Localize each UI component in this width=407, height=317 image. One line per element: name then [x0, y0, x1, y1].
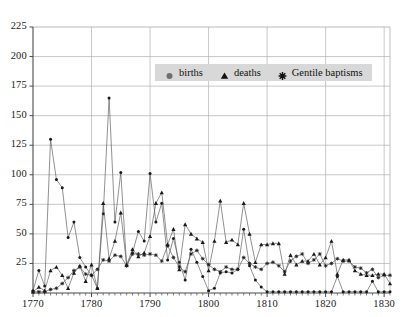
- data-point-asterisk: [119, 254, 123, 258]
- data-point-circle: [143, 239, 146, 242]
- y-axis-tick-label: 150: [0, 109, 27, 120]
- y-axis-tick-label: 75: [0, 197, 27, 208]
- asterisk-marker-icon: [277, 67, 288, 78]
- data-point-asterisk: [142, 253, 146, 257]
- data-point-circle: [67, 236, 70, 239]
- data-point-asterisk: [382, 273, 386, 277]
- data-point-asterisk: [371, 267, 375, 271]
- data-point-circle: [119, 171, 122, 174]
- data-point-asterisk: [300, 252, 304, 256]
- data-point-asterisk: [224, 265, 228, 269]
- data-point-asterisk: [49, 288, 53, 292]
- data-point-asterisk: [218, 270, 222, 274]
- data-point-asterisk: [131, 252, 135, 256]
- data-point-asterisk: [277, 264, 281, 268]
- data-point-asterisk: [84, 272, 88, 276]
- data-point-asterisk: [359, 266, 363, 270]
- data-point-circle: [383, 290, 386, 293]
- chart-plot-area: [0, 0, 407, 317]
- legend-item-gentile-baptisms[interactable]: Gentile baptisms: [277, 67, 363, 78]
- data-point-asterisk: [72, 269, 76, 273]
- y-axis-tick-label: 200: [0, 50, 27, 61]
- data-point-asterisk: [43, 290, 47, 294]
- data-point-asterisk: [271, 260, 275, 264]
- data-point-circle: [201, 275, 204, 278]
- data-point-circle: [371, 280, 374, 283]
- chart-container: birthsdeathsGentile baptisms 25507510012…: [0, 0, 407, 317]
- data-point-circle: [37, 269, 40, 272]
- x-axis-tick-label: 1810: [245, 298, 289, 309]
- data-point-circle: [307, 290, 310, 293]
- data-point-circle: [365, 290, 368, 293]
- data-point-circle: [207, 289, 210, 292]
- data-point-circle: [49, 138, 52, 141]
- data-point-circle: [195, 261, 198, 264]
- data-point-asterisk: [294, 254, 298, 258]
- data-point-asterisk: [125, 264, 129, 268]
- data-point-asterisk: [37, 290, 41, 294]
- data-point-asterisk: [347, 259, 351, 263]
- data-point-asterisk: [318, 252, 322, 256]
- data-point-circle: [108, 96, 111, 99]
- data-point-asterisk: [201, 257, 205, 261]
- data-point-asterisk: [78, 265, 82, 269]
- data-point-asterisk: [283, 270, 287, 274]
- data-point-circle: [113, 221, 116, 224]
- x-axis-tick-label: 1820: [304, 298, 348, 309]
- data-point-circle: [149, 172, 152, 175]
- data-point-circle: [61, 186, 64, 189]
- data-point-asterisk: [66, 276, 70, 280]
- data-point-asterisk: [101, 258, 105, 262]
- data-point-asterisk: [113, 253, 117, 257]
- data-point-circle: [254, 278, 257, 281]
- data-point-asterisk: [31, 290, 35, 294]
- y-axis-tick-label: 225: [0, 20, 27, 31]
- data-point-asterisk: [289, 259, 293, 263]
- y-axis-tick-label: 25: [0, 256, 27, 267]
- chart-legend: birthsdeathsGentile baptisms: [155, 64, 372, 81]
- data-point-asterisk: [213, 267, 217, 271]
- data-point-circle: [324, 290, 327, 293]
- data-point-asterisk: [148, 252, 152, 256]
- x-axis-tick-label: 1790: [128, 298, 172, 309]
- data-point-asterisk: [154, 253, 158, 257]
- x-axis-tick-label: 1780: [70, 298, 114, 309]
- data-point-circle: [342, 290, 345, 293]
- data-point-circle: [72, 221, 75, 224]
- x-axis-tick-label: 1800: [187, 298, 231, 309]
- data-point-asterisk: [335, 257, 339, 261]
- data-point-asterisk: [183, 270, 187, 274]
- data-point-circle: [277, 290, 280, 293]
- data-point-asterisk: [107, 259, 111, 263]
- data-point-asterisk: [376, 276, 380, 280]
- legend-label: Gentile baptisms: [292, 67, 363, 78]
- data-point-circle: [137, 230, 140, 233]
- data-point-asterisk: [253, 265, 257, 269]
- legend-item-deaths[interactable]: deaths: [219, 67, 261, 78]
- data-point-circle: [242, 228, 245, 231]
- data-point-circle: [230, 271, 233, 274]
- data-point-asterisk: [136, 252, 140, 256]
- data-point-asterisk: [166, 244, 170, 248]
- data-point-asterisk: [248, 262, 252, 266]
- data-point-asterisk: [312, 258, 316, 262]
- legend-item-births[interactable]: births: [164, 67, 203, 78]
- data-point-circle: [190, 248, 193, 251]
- data-point-circle: [55, 178, 58, 181]
- data-point-circle: [283, 290, 286, 293]
- data-point-asterisk: [189, 252, 193, 256]
- data-point-asterisk: [353, 265, 357, 269]
- data-point-circle: [289, 290, 292, 293]
- y-axis-tick-label: 175: [0, 79, 27, 90]
- data-point-circle: [213, 287, 216, 290]
- data-point-asterisk: [242, 256, 246, 260]
- data-point-circle: [260, 286, 263, 289]
- circle-marker-icon: [164, 67, 175, 78]
- data-point-asterisk: [55, 286, 59, 290]
- data-point-asterisk: [207, 263, 211, 267]
- data-point-circle: [312, 290, 315, 293]
- data-point-asterisk: [160, 259, 164, 263]
- data-point-circle: [377, 290, 380, 293]
- data-point-circle: [330, 290, 333, 293]
- data-point-circle: [225, 270, 228, 273]
